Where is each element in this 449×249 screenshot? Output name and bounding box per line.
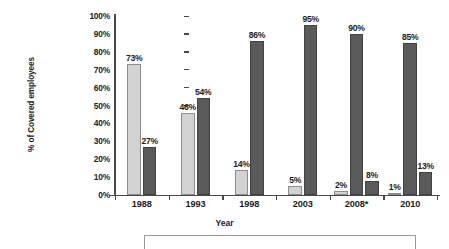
bar-1998-series1 — [235, 170, 249, 195]
y-tick-label: 20% — [76, 154, 110, 164]
bar-value-label: 14% — [227, 159, 257, 169]
bar-value-label: 2% — [326, 180, 356, 190]
legend-box — [144, 235, 416, 249]
bar-2010-series3 — [419, 172, 433, 195]
x-tick-label: 2003 — [273, 199, 333, 209]
bar-value-label: 73% — [119, 53, 149, 63]
x-tick-label: 2010 — [380, 199, 440, 209]
bar-value-label: 86% — [242, 30, 272, 40]
bar-1988-series2 — [143, 147, 157, 195]
bar-2003-series2 — [304, 25, 318, 195]
y-tick-label: 80% — [76, 47, 110, 57]
y-tick-label: 30% — [76, 136, 110, 146]
bar-value-label: 46% — [173, 102, 203, 112]
x-tick-label: 2008* — [327, 199, 387, 209]
x-tick-mark — [276, 195, 277, 200]
bar-value-label: 85% — [395, 32, 425, 42]
y-tick-label: 0% — [76, 190, 110, 200]
y-tick-label: 90% — [76, 29, 110, 39]
bar-value-label: 95% — [296, 14, 326, 24]
bar-2008-series3 — [365, 181, 379, 195]
x-tick-label: 1993 — [166, 199, 226, 209]
bar-value-label: 27% — [135, 136, 165, 146]
y-tick-label: 70% — [76, 65, 110, 75]
y-tick-label: 50% — [76, 101, 110, 111]
x-tick-mark — [383, 195, 384, 200]
x-tick-label: 1998 — [219, 199, 279, 209]
bar-1993-series1 — [181, 113, 195, 195]
x-tick-mark — [169, 195, 170, 200]
bar-value-label: 54% — [189, 87, 219, 97]
bar-2008-series1 — [334, 191, 348, 195]
bar-2010-series1 — [388, 193, 402, 195]
x-tick-mark — [222, 195, 223, 200]
bar-value-label: 8% — [357, 170, 387, 180]
bar-1988-series1 — [127, 64, 141, 195]
x-tick-label: 1988 — [112, 199, 172, 209]
y-tick-label: 10% — [76, 172, 110, 182]
plot-area — [115, 16, 437, 195]
y-tick-label: 40% — [76, 118, 110, 128]
bar-2003-series1 — [288, 186, 302, 195]
x-tick-mark — [437, 195, 438, 200]
bar-value-label: 5% — [280, 175, 310, 185]
y-axis-title: % of Covered employees — [27, 35, 36, 175]
y-tick-label: 100% — [76, 11, 110, 21]
y-tick-label: 60% — [76, 83, 110, 93]
bar-value-label: 13% — [411, 161, 441, 171]
bar-value-label: 90% — [342, 23, 372, 33]
x-axis-title: Year — [0, 218, 449, 228]
bar-2010-series2 — [403, 43, 417, 195]
x-tick-mark — [115, 195, 116, 200]
x-tick-mark — [330, 195, 331, 200]
bar-1993-series2 — [197, 98, 211, 195]
bar-value-label: 1% — [380, 182, 410, 192]
y-axis-ticks: 0%10%20%30%40%50%60%70%80%90%100% — [74, 0, 110, 242]
bar-1998-series2 — [250, 41, 264, 195]
